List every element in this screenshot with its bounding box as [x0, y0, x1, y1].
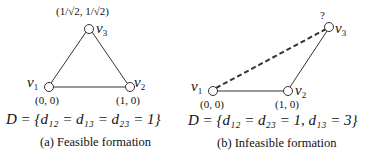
coord-v1: (0, 0) — [35, 94, 59, 106]
node-v3 — [325, 23, 334, 32]
node-v2 — [284, 87, 293, 96]
label-v3: v3 — [335, 20, 346, 38]
caption-b: (b) Infeasible formation — [217, 136, 336, 151]
node-v3 — [85, 25, 94, 34]
equation-b: D = {d₁₂ = d₂₃ = 1, d₁₃ = 3} — [188, 112, 358, 129]
coord-v1: (0, 0) — [200, 98, 224, 110]
node-v1 — [209, 87, 218, 96]
label-v3: v3 — [96, 20, 107, 38]
coord-v3: (1/√2, 1/√2) — [56, 5, 109, 17]
label-v1: v1 — [27, 74, 38, 92]
panel-b-graph — [209, 23, 334, 96]
edge-v1-v3 — [51, 32, 86, 83]
unknown-marker: ? — [320, 9, 325, 21]
node-v1 — [45, 83, 54, 92]
caption-a: (a) Feasible formation — [40, 135, 151, 150]
edge-v1-v3-dashed — [216, 29, 326, 88]
panel-a-graph — [45, 25, 135, 92]
coord-v2: (1, 0) — [275, 98, 299, 110]
coord-v2: (1, 0) — [116, 94, 140, 106]
edge-v2-v3 — [92, 32, 127, 83]
label-v2: v2 — [134, 74, 145, 92]
label-v1: v1 — [191, 78, 202, 96]
equation-a: D = {d₁₂ = d₁₃ = d₂₃ = 1} — [6, 111, 161, 128]
